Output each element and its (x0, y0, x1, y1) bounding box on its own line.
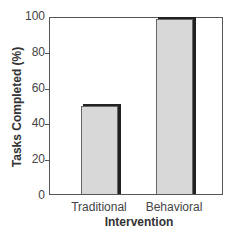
y-tick-label: 60 (15, 81, 45, 95)
y-tick (45, 89, 50, 90)
y-tick (45, 160, 50, 161)
x-axis-title: Intervention (99, 215, 179, 229)
x-tick-label-behavioral: Behavioral (139, 200, 209, 214)
bar-traditional (81, 106, 118, 194)
y-tick-label: 40 (15, 116, 45, 130)
x-tick-label-traditional: Traditional (64, 200, 134, 214)
y-tick (45, 53, 50, 54)
y-tick-label: 80 (15, 45, 45, 59)
y-tick-label: 0 (15, 188, 45, 202)
bar-behavioral (156, 19, 193, 194)
y-tick-label: 20 (15, 152, 45, 166)
y-tick-label: 100 (15, 9, 45, 23)
y-tick (45, 124, 50, 125)
plot-area (49, 17, 223, 195)
